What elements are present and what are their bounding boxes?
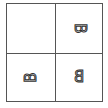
cell-letter: B bbox=[71, 23, 86, 33]
cell-letter: B bbox=[74, 70, 84, 85]
cell-top-left[interactable] bbox=[7, 4, 55, 53]
cell-top-right[interactable]: B bbox=[56, 4, 102, 53]
cell-letter: B bbox=[23, 72, 38, 82]
puzzle-grid: B B B bbox=[6, 3, 103, 102]
cell-bottom-right[interactable]: B bbox=[56, 54, 102, 101]
cell-bottom-left[interactable]: B bbox=[7, 54, 55, 101]
